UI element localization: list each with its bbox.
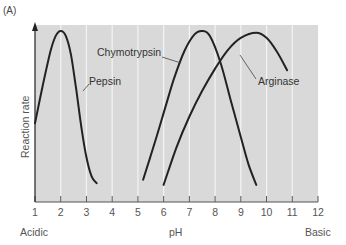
x-tick-label: 12 (312, 206, 324, 218)
panel-label: (A) (3, 5, 16, 16)
plot-area (35, 25, 318, 202)
x-tick-label: 6 (161, 206, 167, 218)
chymotrypsin-label: Chymotrypsin (97, 46, 161, 58)
x-tick-label: 7 (186, 206, 192, 218)
enzyme-ph-chart: (A) Pepsin Chymotrypsin Arginase Reactio… (0, 0, 346, 245)
x-tick-label: 3 (84, 206, 90, 218)
x-tick-labels: 123456789101112 (32, 206, 324, 218)
x-axis-right-label: Basic (305, 226, 331, 238)
x-tick-label: 1 (32, 206, 38, 218)
pepsin-label: Pepsin (89, 75, 121, 87)
x-tick-label: 11 (287, 206, 298, 218)
x-tick-label: 2 (58, 206, 64, 218)
x-tick-label: 4 (109, 206, 115, 218)
x-axis-label: pH (169, 226, 182, 238)
x-tick-label: 8 (212, 206, 218, 218)
arginase-label: Arginase (258, 75, 300, 87)
y-axis-label: Reaction rate (19, 95, 31, 158)
x-tick-label: 9 (238, 206, 244, 218)
x-tick-label: 5 (135, 206, 141, 218)
x-tick-label: 10 (261, 206, 273, 218)
x-axis-left-label: Acidic (20, 226, 48, 238)
